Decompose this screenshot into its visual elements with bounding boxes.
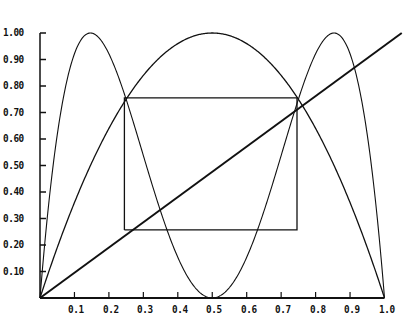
y-tick-label: 0.70 xyxy=(3,107,24,118)
y-tick-label: 0.40 xyxy=(3,186,24,197)
y-tick-label: 0.90 xyxy=(3,54,24,65)
y-tick-label: 0.30 xyxy=(3,213,24,224)
x-tick-label: 0.9 xyxy=(344,304,360,315)
chart-figure: 1.000.900.800.700.600.500.400.300.200.10… xyxy=(0,0,414,325)
cycle-box xyxy=(124,98,297,230)
identity-line xyxy=(40,33,402,298)
x-tick-label: 0.4 xyxy=(172,304,188,315)
y-tick-label: 0.10 xyxy=(3,266,24,277)
x-tick-label: 0.2 xyxy=(103,304,119,315)
y-tick-label: 1.00 xyxy=(3,27,24,38)
parabola-curve xyxy=(40,33,385,298)
x-tick-label: 0.1 xyxy=(68,304,84,315)
y-tick-label: 0.80 xyxy=(3,80,24,91)
y-tick-label: 0.60 xyxy=(3,133,24,144)
x-tick-label: 0.8 xyxy=(310,304,326,315)
x-tick-label: 1.0 xyxy=(379,304,395,315)
y-tick-label: 0.50 xyxy=(3,160,24,171)
x-tick-label: 0.5 xyxy=(206,304,222,315)
plot-area xyxy=(0,0,414,325)
second-iterate-curve xyxy=(40,33,385,298)
y-tick-label: 0.20 xyxy=(3,239,24,250)
x-tick-label: 0.7 xyxy=(275,304,291,315)
x-tick-label: 0.6 xyxy=(241,304,257,315)
x-tick-label: 0.3 xyxy=(137,304,153,315)
